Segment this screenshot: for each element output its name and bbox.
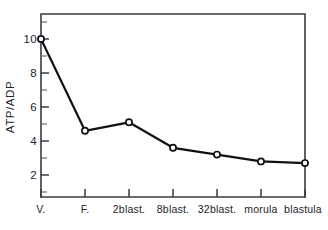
x-tick-label-2blast: 2blast. <box>113 203 145 215</box>
data-point-32blast. <box>214 152 220 158</box>
data-point-blastula <box>302 160 308 166</box>
data-point-V. <box>38 36 44 42</box>
x-axis-tick-labels: V. F. 2blast. 8blast. 32blast. morula bl… <box>36 203 322 215</box>
data-point-F. <box>82 128 88 134</box>
x-tick-label-morula: morula <box>244 203 277 215</box>
y-tick-label-4: 4 <box>30 135 37 147</box>
plot-background <box>41 14 305 197</box>
x-tick-label-v: V. <box>36 203 45 215</box>
y-tick-label-10: 10 <box>24 33 37 45</box>
x-tick-label-f: F. <box>81 203 90 215</box>
y-axis-title: ATP/ADP <box>4 81 16 134</box>
y-tick-label-8: 8 <box>30 67 37 79</box>
x-tick-label-blastula: blastula <box>284 203 322 215</box>
chart-figure: 10 8 6 4 2 ATP/ADP V. F. 2blast. 8blast.… <box>0 0 328 230</box>
y-axis-tick-labels: 10 8 6 4 2 <box>24 33 38 181</box>
x-tick-label-8blast: 8blast. <box>157 203 189 215</box>
data-point-morula <box>258 158 264 164</box>
data-point-2blast. <box>126 119 132 125</box>
y-tick-label-6: 6 <box>30 101 37 113</box>
y-tick-label-2: 2 <box>30 169 37 181</box>
data-point-8blast. <box>170 145 176 151</box>
atp-adp-line-chart: 10 8 6 4 2 ATP/ADP V. F. 2blast. 8blast.… <box>0 0 328 230</box>
x-tick-label-32blast: 32blast. <box>198 203 236 215</box>
